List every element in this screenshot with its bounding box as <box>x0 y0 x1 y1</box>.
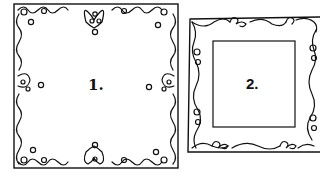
frame-2-top-scrolls <box>192 18 317 33</box>
frame-2-label: 2. <box>246 75 259 92</box>
frame-1-right-scrolls <box>146 14 175 164</box>
frame-2-bottom-scrolls <box>192 142 314 150</box>
frame-2-left-scrolls <box>192 22 201 148</box>
frame-2-right-scrolls <box>307 30 316 140</box>
frame-1-bottom-scrolls <box>18 142 167 165</box>
frame-1-top-scrolls <box>18 7 167 35</box>
frame-1-label: 1. <box>88 76 104 94</box>
illustration-canvas <box>0 0 320 176</box>
frame-1-left-scrolls <box>17 14 44 164</box>
